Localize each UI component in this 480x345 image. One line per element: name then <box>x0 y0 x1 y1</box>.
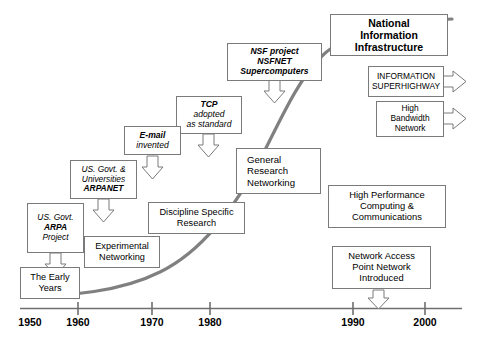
axis-tick-1950: 1950 <box>18 316 41 328</box>
node-network-access-point[interactable]: Network Access Point Network Introduced <box>332 246 431 289</box>
node-experimental-networking[interactable]: Experimental Networking <box>84 236 160 268</box>
node-nsf-nsfnet[interactable]: NSF project NSFNET Supercomputers <box>227 43 322 81</box>
arrow-down-nsf <box>264 80 285 103</box>
discipline-line-2: Research <box>177 218 216 229</box>
arrow-right-superhighway <box>442 71 466 92</box>
general-line-2: Research <box>247 165 288 176</box>
early-line-1: The Early <box>30 272 69 283</box>
superhighway-line-2: SUPERHIGHWAY <box>372 82 440 92</box>
node-arpa-project[interactable]: US. Govt. ARPA Project <box>27 203 84 253</box>
node-the-early-years[interactable]: The Early Years <box>20 267 80 299</box>
arrow-down-arpanet <box>93 199 114 222</box>
node-arpanet[interactable]: US. Govt. & Universities ARPANET <box>70 160 137 199</box>
axis-tick-1960: 1960 <box>66 316 89 328</box>
node-high-bandwidth-network[interactable]: High Bandwidth Network <box>376 101 444 137</box>
experimental-line-1: Experimental <box>95 241 149 252</box>
arrow-right-bandwidth <box>442 108 466 129</box>
experimental-line-2: Networking <box>99 252 145 263</box>
nii-line-2: Information <box>360 29 418 41</box>
nsf-line-3: Supercomputers <box>240 67 308 77</box>
node-general-research-networking[interactable]: General Research Networking <box>236 148 321 194</box>
bandwidth-line-3: Network <box>395 124 426 134</box>
node-high-performance-computing[interactable]: High Performance Computing & Communicati… <box>328 185 446 228</box>
arrow-down-tcp <box>198 134 219 157</box>
nap-line-3: Introduced <box>359 273 403 284</box>
node-email-invented[interactable]: E-mail invented <box>124 126 181 155</box>
arrow-down-email <box>142 156 163 179</box>
nii-line-3: Infrastructure <box>355 41 423 53</box>
axis-tick-2000: 2000 <box>413 316 436 328</box>
node-tcp-adopted[interactable]: TCP adopted as standard <box>176 96 242 134</box>
arrow-down-nap <box>368 290 389 309</box>
discipline-line-1: Discipline Specific <box>159 207 233 218</box>
axis-tick-1970: 1970 <box>140 316 163 328</box>
axis-tick-1990: 1990 <box>341 316 364 328</box>
email-line-1: E-mail <box>140 131 166 141</box>
tcp-line-3: as standard <box>187 120 232 130</box>
nii-line-1: National <box>368 17 409 29</box>
email-line-2: invented <box>136 141 169 151</box>
node-national-information-infrastructure[interactable]: National Information Infrastructure <box>330 14 448 56</box>
node-discipline-specific-research[interactable]: Discipline Specific Research <box>148 202 245 234</box>
node-information-superhighway[interactable]: INFORMATION SUPERHIGHWAY <box>368 66 444 97</box>
arpa-line-3: Project <box>42 233 68 243</box>
early-line-2: Years <box>38 283 61 294</box>
axis-tick-1980: 1980 <box>198 316 221 328</box>
axis-ticks <box>78 302 425 315</box>
general-line-1: General <box>247 154 281 165</box>
arpanet-line-3: ARPANET <box>84 184 124 194</box>
diagram-canvas: 1950 1960 1970 1980 1990 2000 National I… <box>0 0 480 345</box>
right-arrows <box>442 71 466 129</box>
hpcc-line-3: Communications <box>352 212 422 223</box>
general-line-3: Networking <box>247 177 295 188</box>
